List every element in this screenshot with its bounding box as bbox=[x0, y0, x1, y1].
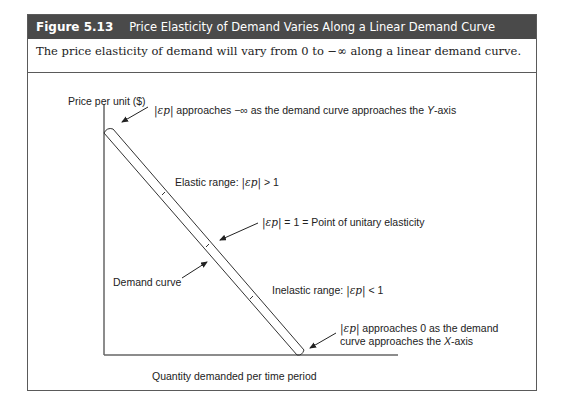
y-axis-label: Price per unit ($) bbox=[68, 95, 146, 108]
demand-curve-label: Demand curve bbox=[113, 276, 181, 289]
demand-curve-arrow bbox=[182, 262, 207, 278]
x-axis-end-annotation: |εp| approaches 0 as the demand curve ap… bbox=[340, 322, 498, 348]
inelastic-range-label: Inelastic range: |εp| < 1 bbox=[272, 284, 383, 297]
y-end-arrow bbox=[122, 107, 148, 122]
unitary-arrow bbox=[220, 223, 258, 240]
elastic-range-label: Elastic range: |εp| > 1 bbox=[175, 176, 279, 189]
demand-curve bbox=[104, 129, 304, 356]
unitary-elasticity-label: |εp| = 1 = Point of unitary elasticity bbox=[262, 216, 424, 229]
y-axis-end-annotation: |εp| approaches −∞ as the demand curve a… bbox=[154, 104, 456, 117]
demand-diagram bbox=[0, 0, 564, 416]
x-end-arrow bbox=[310, 333, 336, 348]
x-axis-label: Quantity demanded per time period bbox=[152, 370, 317, 383]
